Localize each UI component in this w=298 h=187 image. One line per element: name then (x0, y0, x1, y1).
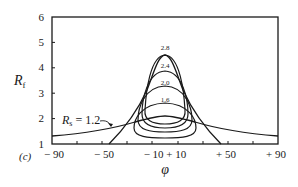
label-2.8: 2.8 (161, 44, 170, 52)
x-tick-plus50: + 50 (216, 148, 236, 160)
y-tick-2: 2 (39, 112, 45, 124)
y-tick-6: 6 (39, 11, 45, 23)
chart: 6 5 4 3 2 1 − 90 − 50 − 10 + 10 + 50 + 9… (0, 0, 298, 187)
x-tick-minus90: − 90 (44, 148, 64, 160)
x-axis-title: φ (161, 162, 169, 177)
y-tick-5: 5 (39, 36, 45, 48)
arrow-head (108, 123, 113, 127)
x-tick-minus10-plus10: − 10 + 10 (144, 148, 187, 160)
y-tick-labels: 6 5 4 3 2 1 (39, 11, 45, 150)
label-2.4: 2.4 (161, 62, 170, 70)
label-1.6: 1.6 (161, 96, 170, 104)
y-tick-4: 4 (39, 61, 45, 73)
annotation-rs: Rs = 1.2 (61, 113, 100, 128)
y-axis-title: Rf (13, 73, 26, 90)
panel-label: (c) (19, 150, 32, 163)
label-2.0: 2.0 (161, 79, 170, 87)
y-tick-3: 3 (39, 87, 45, 99)
x-tick-minus50: − 50 (94, 148, 114, 160)
x-tick-labels: − 90 − 50 − 10 + 10 + 50 + 90 (44, 148, 286, 160)
x-tick-plus90: + 90 (266, 148, 286, 160)
